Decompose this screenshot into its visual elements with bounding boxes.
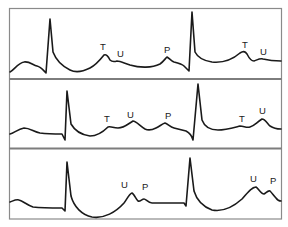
wave-label-t: T (242, 39, 248, 50)
wave-label-t: T (239, 113, 245, 124)
wave-label-p: P (142, 181, 148, 192)
wave-label-p: P (270, 175, 276, 186)
ecg-diagram: T U P T U T U P T U U P U P (0, 0, 288, 227)
panel-1: T U P T U (10, 12, 281, 73)
ecg-trace-1 (10, 12, 281, 73)
panel-2: T U P T U (10, 84, 281, 140)
ecg-figure: T U P T U T U P T U U P U P (0, 0, 288, 227)
wave-label-u: U (121, 179, 128, 190)
wave-label-t: T (104, 113, 110, 124)
wave-label-u: U (260, 46, 267, 57)
panel-3: U P U P (10, 158, 281, 217)
wave-label-u: U (127, 109, 134, 120)
wave-label-p: P (165, 110, 171, 121)
wave-label-t: T (100, 41, 106, 52)
wave-label-p: P (164, 44, 170, 55)
ecg-trace-2 (10, 84, 281, 140)
wave-label-u: U (117, 48, 124, 59)
wave-label-u: U (259, 105, 266, 116)
wave-label-u: U (250, 173, 257, 184)
